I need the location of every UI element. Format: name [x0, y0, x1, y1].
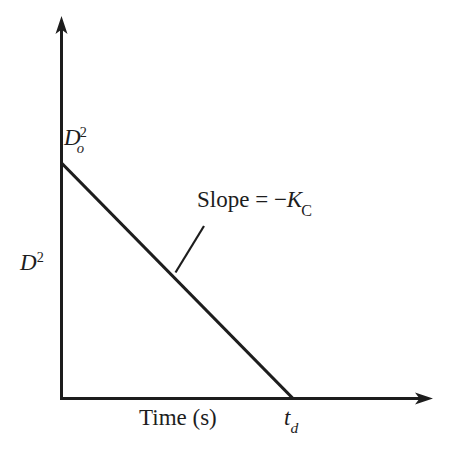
y-intercept-subscript: o [77, 140, 84, 156]
plot-canvas [0, 0, 450, 452]
y-axis-title: D2 [20, 249, 44, 274]
slope-minus-sign: − [274, 187, 287, 212]
slope-prefix: Slope = [197, 187, 274, 212]
y-axis-title-exponent: 2 [37, 249, 44, 265]
y-intercept-exponent: 2 [80, 124, 87, 140]
slope-symbol: K [287, 187, 302, 212]
x-axis-point-subscript: d [290, 419, 298, 436]
y-intercept-label: D2o [64, 124, 95, 153]
slope-annotation: Slope = −KC [197, 188, 313, 216]
x-axis-title: Time (s) [139, 406, 217, 429]
d-squared-law-figure: D2o D2 Time (s) td Slope = −KC [0, 0, 450, 452]
x-axis-point-label: td [284, 406, 298, 433]
y-axis-title-base: D [20, 250, 37, 275]
slope-subscript: C [301, 202, 312, 219]
slope-leader-line [176, 226, 205, 273]
